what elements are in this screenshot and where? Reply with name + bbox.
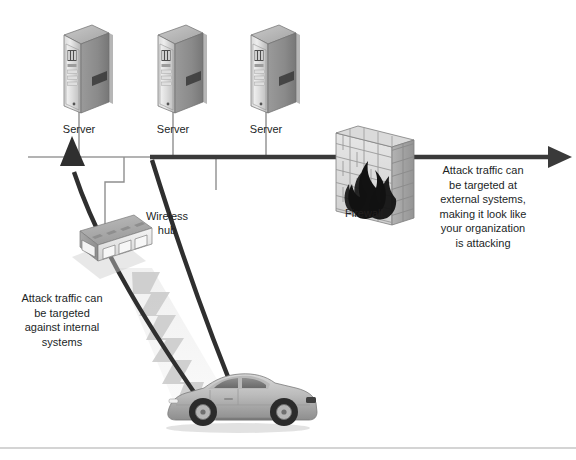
label-firewall: Firewall [334,207,394,221]
server-icon-1 [64,25,113,113]
label-wireless-hub-line-1: Wireless [138,210,196,224]
annotation-external-attack: Attack traffic can be targeted at extern… [423,163,543,250]
arrowhead-up-icon [60,136,85,166]
annotation-internal-attack: Attack traffic can be targeted against i… [10,291,114,349]
label-wireless-hub-line-2: hub [138,224,196,238]
server-icon-3 [251,25,300,113]
label-server-2: Server [146,123,200,137]
diagram-canvas: Server Server Server Wireless hub Firewa… [0,0,576,460]
label-server-1: Server [52,123,106,137]
label-server-3: Server [239,123,293,137]
server-icon-2 [158,25,207,113]
arrowhead-right-icon [548,146,572,168]
label-wireless-hub: Wireless hub [138,210,196,237]
